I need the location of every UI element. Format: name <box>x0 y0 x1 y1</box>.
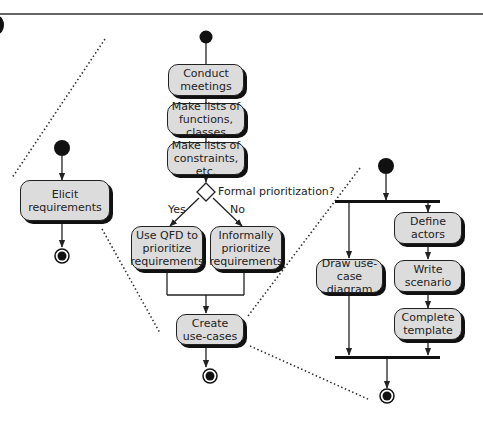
branch-yes-label: Yes <box>168 203 186 216</box>
activity-complete-template: Complete template <box>394 308 462 340</box>
activity-label: Informally prioritize requirements <box>209 229 283 268</box>
activity-label: Define actors <box>410 215 446 241</box>
activity-label: Conduct meetings <box>180 67 231 93</box>
zoom-line-bottom <box>250 346 370 400</box>
initial-node-icon <box>54 140 70 156</box>
branch-no-label: No <box>230 203 245 216</box>
initial-node-icon <box>200 31 213 44</box>
decision-diamond-icon <box>197 183 215 201</box>
activity-elicit-requirements: Elicit requirements <box>20 180 110 221</box>
fork-bar <box>335 200 440 203</box>
activity-write-scenario: Write scenario <box>394 260 462 292</box>
activity-label: Complete template <box>401 311 454 337</box>
activity-conduct-meetings: Conduct meetings <box>168 64 244 96</box>
activity-label: Make lists of constraints, etc. <box>170 139 242 178</box>
activity-label: Elicit requirements <box>23 188 107 214</box>
activity-label: Make lists of functions, classes <box>170 100 242 139</box>
activity-draw-use-case-diagram: Draw use-case diagram <box>316 259 383 293</box>
activity-define-actors: Define actors <box>394 212 462 244</box>
join-bar <box>335 356 440 359</box>
panel-marker-icon <box>0 16 4 34</box>
activity-make-lists-functions: Make lists of functions, classes <box>167 103 245 135</box>
activity-label: Write scenario <box>405 263 452 289</box>
decision-question: Formal prioritization? <box>218 185 335 198</box>
zoom-line-top <box>12 39 105 178</box>
activity-informally-prioritize: Informally prioritize requirements <box>210 226 282 270</box>
activity-label: Use QFD to prioritize requirements <box>130 229 204 268</box>
activity-label: Draw use-case diagram <box>319 257 380 296</box>
activity-make-lists-constraints: Make lists of constraints, etc. <box>167 142 245 175</box>
activity-label: Create use-cases <box>183 317 237 343</box>
activity-create-use-cases: Create use-cases <box>176 314 244 345</box>
activity-use-qfd: Use QFD to prioritize requirements <box>131 226 203 270</box>
initial-node-icon <box>378 158 394 174</box>
